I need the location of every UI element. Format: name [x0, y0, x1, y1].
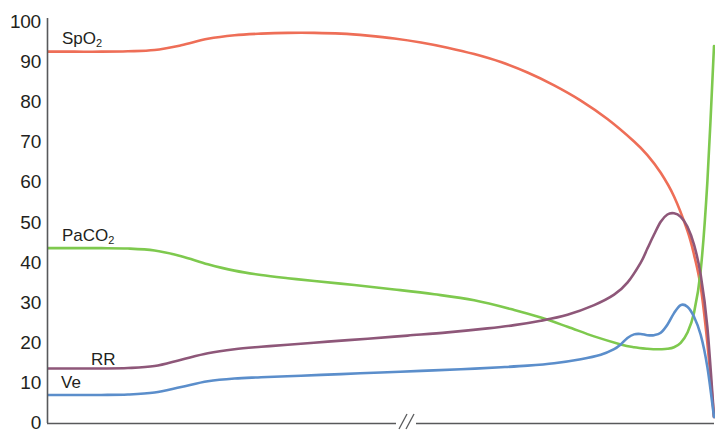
series-line-rr: [48, 213, 714, 417]
series-line-spo2: [48, 33, 714, 417]
chart-container: 1009080706050403020100 SpO2PaCO2RRVe: [0, 0, 717, 440]
series-group: [48, 33, 714, 417]
series-line-ve: [48, 305, 714, 417]
chart-plot-area: [0, 0, 717, 440]
x-axis-break-icon: [396, 414, 416, 430]
series-line-paco2: [48, 46, 714, 349]
